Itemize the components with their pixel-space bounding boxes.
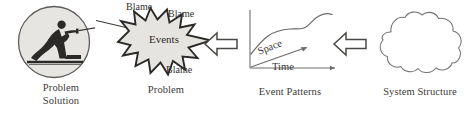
blame-label-bottom: Blame [166,64,192,75]
caption-problem: Problem [112,84,220,97]
events-label: Events [134,33,194,45]
blame-label-top-left: Blame [126,1,152,12]
cloud-icon [368,4,468,80]
left-arrow-icon-events-from-patterns [203,30,239,58]
panel-events: Blame Blame Blame Events Problem [112,0,220,117]
chart-axis-label-time: Time [272,61,294,72]
left-arrow-icon-patterns-from-structure [332,30,368,58]
caption-problem-solution: Problem Solution [8,82,114,107]
panel-event-patterns: Space Time Event Patterns [240,2,340,117]
panel-system-structure: System Structure [368,2,472,117]
caption-event-patterns: Event Patterns [238,86,342,99]
diagram-canvas: Problem Solution Blame Blame Blame Event… [0,0,474,117]
blame-label-top-right: Blame [168,8,194,19]
caption-system-structure: System Structure [366,86,474,99]
fencer-lunge-icon [17,5,95,79]
